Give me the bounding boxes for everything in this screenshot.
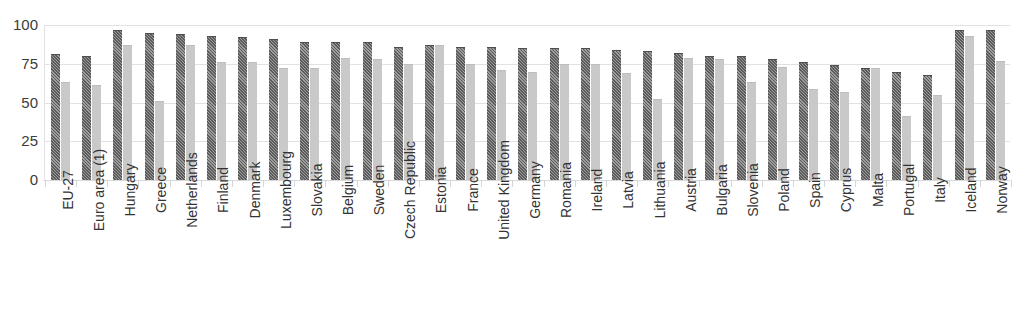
bar-series2 [871, 68, 880, 180]
x-label-text: Sweden [372, 165, 386, 216]
bar-series2 [341, 58, 350, 180]
x-label-text: Germany [528, 161, 542, 219]
category-tick [45, 180, 46, 187]
x-label-text: Hungary [123, 164, 137, 217]
category-tick [606, 180, 607, 187]
x-label-hungary: Hungary [107, 188, 138, 298]
bar-group [325, 25, 356, 180]
x-label-estonia: Estonia [419, 188, 450, 298]
x-label-text: Belgium [341, 165, 355, 216]
bar-series1 [82, 56, 91, 180]
x-label-malta: Malta [855, 188, 886, 298]
bar-series2 [591, 64, 600, 180]
x-label-text: France [466, 168, 480, 212]
bar-series1 [861, 68, 870, 180]
x-label-text: Czech Republic [403, 141, 417, 239]
bar-series2 [840, 92, 849, 180]
bar-series1 [363, 42, 372, 180]
bar-group [512, 25, 543, 180]
x-label-text: Malta [871, 173, 885, 207]
category-tick [793, 180, 794, 187]
x-label-romania: Romania [544, 188, 575, 298]
bar-group [980, 25, 1011, 180]
bar-group [107, 25, 138, 180]
bar-group [450, 25, 481, 180]
bar-group [201, 25, 232, 180]
category-tick [544, 180, 545, 187]
x-label-greece: Greece [138, 188, 169, 298]
x-axis-category-labels: EU-27Euro area (1)HungaryGreeceNetherlan… [45, 188, 1011, 298]
x-label-text: Slovenia [746, 163, 760, 217]
x-label-luxembourg: Luxembourg [263, 188, 294, 298]
bar-series1 [830, 65, 839, 180]
category-tick [886, 180, 887, 187]
x-label-text: Finland [216, 167, 230, 213]
x-label-text: Ireland [590, 169, 604, 212]
bar-series2 [435, 45, 444, 180]
bar-series1 [705, 56, 714, 180]
category-tick [668, 180, 669, 187]
bar-series1 [331, 42, 340, 180]
x-label-text: Romania [559, 162, 573, 218]
bar-series1 [269, 39, 278, 180]
y-tick-label-25: 25 [0, 133, 38, 148]
x-label-ireland: Ireland [575, 188, 606, 298]
bar-group [762, 25, 793, 180]
bar-series2 [684, 58, 693, 180]
category-tick [419, 180, 420, 187]
bar-series1 [550, 48, 559, 180]
y-tick-label-0: 0 [0, 172, 38, 187]
x-label-belgium: Belgium [325, 188, 356, 298]
bar-group [357, 25, 388, 180]
category-tick [731, 180, 732, 187]
bar-series1 [955, 30, 964, 180]
x-label-text: Netherlands [185, 152, 199, 228]
category-tick [855, 180, 856, 187]
bar-series2 [996, 61, 1005, 180]
bar-series2 [61, 82, 70, 180]
category-tick [512, 180, 513, 187]
category-tick [201, 180, 202, 187]
x-label-text: Poland [777, 168, 791, 212]
x-label-bulgaria: Bulgaria [699, 188, 730, 298]
category-tick [637, 180, 638, 187]
category-tick [481, 180, 482, 187]
bar-group [668, 25, 699, 180]
bar-series2 [965, 36, 974, 180]
category-tick [980, 180, 981, 187]
x-label-united-kingdom: United Kingdom [481, 188, 512, 298]
x-label-text: Denmark [248, 162, 262, 219]
category-tick [949, 180, 950, 187]
bar-series1 [923, 75, 932, 180]
bar-series1 [487, 47, 496, 180]
bar-series2 [715, 59, 724, 180]
x-label-cyprus: Cyprus [824, 188, 855, 298]
x-label-text: United Kingdom [497, 140, 511, 240]
x-label-slovakia: Slovakia [294, 188, 325, 298]
y-axis-tick-labels: 1007550250 [0, 25, 38, 180]
bar-series1 [113, 30, 122, 180]
bar-group [730, 25, 761, 180]
bar-group [886, 25, 917, 180]
x-label-text: EU-27 [61, 170, 75, 210]
bar-group [45, 25, 76, 180]
bar-group [793, 25, 824, 180]
x-label-finland: Finland [201, 188, 232, 298]
x-label-text: Euro area (1) [92, 149, 106, 231]
category-tick [762, 180, 763, 187]
x-label-poland: Poland [762, 188, 793, 298]
bar-group [699, 25, 730, 180]
bar-group [606, 25, 637, 180]
bar-series1 [300, 42, 309, 180]
x-label-germany: Germany [512, 188, 543, 298]
category-tick [170, 180, 171, 187]
category-tick [357, 180, 358, 187]
clipped-legend-sliver [0, 323, 1030, 333]
bar-series1 [51, 54, 60, 180]
x-label-france: France [450, 188, 481, 298]
y-tick-label-75: 75 [0, 56, 38, 71]
x-label-text: Spain [808, 172, 822, 208]
bar-series2 [809, 89, 818, 180]
category-tick [263, 180, 264, 187]
x-label-iceland: Iceland [949, 188, 980, 298]
